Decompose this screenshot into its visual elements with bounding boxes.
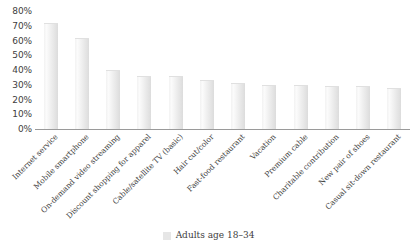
y-axis-tick: 10% (12, 110, 32, 119)
legend-label-adults-18-34: Adults age 18–34 (176, 231, 255, 240)
y-axis-tick: 70% (12, 21, 32, 30)
y-axis-tick: 30% (12, 80, 32, 89)
x-axis-tick-label-text: Mobile smartphone (32, 133, 90, 191)
y-axis-tick: 20% (12, 95, 32, 104)
y-axis-tick: 80% (12, 7, 32, 16)
bar-slot (35, 11, 66, 129)
legend-swatch-adults-18-34 (163, 232, 171, 240)
x-axis-tick-label-text: Vacation (249, 133, 277, 161)
bar-chart: 80%70%60%50%40%30%20%10%0% Internet serv… (0, 0, 417, 251)
bar (44, 23, 58, 129)
bar (294, 85, 308, 129)
y-axis-tick: 60% (12, 36, 32, 45)
bars-layer (35, 11, 410, 129)
y-axis-tick: 0% (18, 125, 32, 134)
x-axis-tick-label-text: Fast-food restaurant (186, 133, 246, 193)
y-axis: 80%70%60%50%40%30%20%10%0% (0, 0, 32, 251)
bar-slot (285, 11, 316, 129)
chart-legend: Adults age 18–34 (0, 231, 417, 240)
y-axis-tick: 40% (12, 66, 32, 75)
y-axis-tick: 50% (12, 51, 32, 60)
